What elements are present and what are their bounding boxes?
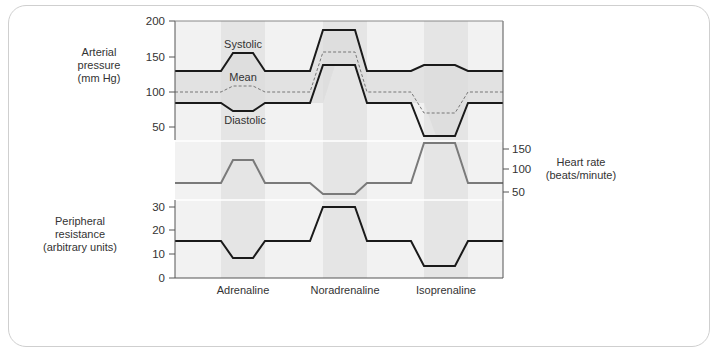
clipped-caption xyxy=(200,301,650,308)
bp-axis-title-line3: (mm Hg) xyxy=(78,72,121,84)
bp-ticks xyxy=(169,21,175,127)
pr-tick-10: 10 xyxy=(152,248,165,260)
noradrenaline-label: Noradrenaline xyxy=(310,284,379,296)
pr-axis-title-line2: resistance xyxy=(55,228,105,240)
bp-tick-200: 200 xyxy=(146,15,165,27)
hr-tick-150: 150 xyxy=(512,143,531,155)
hr-axis-title-line1: Heart rate xyxy=(557,156,606,168)
hr-axis-title-line2: (beats/minute) xyxy=(546,169,616,181)
pr-tick-0: 0 xyxy=(159,272,165,284)
systolic-label: Systolic xyxy=(224,38,262,50)
mean-label: Mean xyxy=(229,71,257,83)
pr-ticks xyxy=(169,207,175,278)
pr-axis-title-line1: Peripheral xyxy=(55,215,105,227)
hr-ticks xyxy=(503,149,509,192)
pr-tick-20: 20 xyxy=(152,224,165,236)
pr-axis-title-line3: (arbitrary units) xyxy=(43,241,117,253)
isoprenaline-label: Isoprenaline xyxy=(416,284,476,296)
bp-axis-title-line1: Arterial xyxy=(82,46,117,58)
hr-tick-50: 50 xyxy=(512,186,525,198)
hr-tick-100: 100 xyxy=(512,163,531,175)
isoprenaline-column xyxy=(424,21,468,278)
pr-tick-30: 30 xyxy=(152,201,165,213)
bp-axis-title-line2: pressure xyxy=(78,59,121,71)
adrenaline-label: Adrenaline xyxy=(217,284,270,296)
bp-tick-100: 100 xyxy=(146,86,165,98)
bp-tick-50: 50 xyxy=(152,121,165,133)
bp-tick-150: 150 xyxy=(146,51,165,63)
diastolic-label: Diastolic xyxy=(224,114,266,126)
